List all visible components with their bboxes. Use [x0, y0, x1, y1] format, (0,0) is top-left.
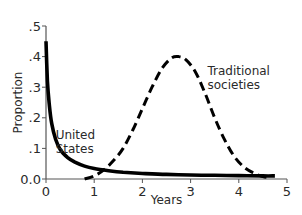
series-annotation: Traditionalsocieties — [206, 64, 269, 92]
y-tick-label: 0.0 — [20, 172, 41, 187]
y-axis-title: Proportion — [11, 72, 25, 134]
y-tick-label: .1 — [29, 141, 41, 156]
x-tick-label: 2 — [138, 184, 146, 199]
x-axis-title: Years — [150, 193, 183, 207]
y-tick-label: .3 — [29, 80, 41, 95]
x-tick-label: 4 — [235, 184, 243, 199]
x-tick-label: 0 — [42, 184, 50, 199]
x-tick-label: 5 — [283, 184, 291, 199]
series-annotation: UnitedStates — [56, 128, 95, 156]
x-tick-label: 1 — [90, 184, 98, 199]
series-layer — [46, 41, 275, 179]
annotations: UnitedStatesTraditionalsocieties — [56, 64, 270, 156]
y-tick-label: .4 — [29, 49, 41, 64]
line-chart: 0.0.1.2.3.4.5012345 UnitedStatesTraditio… — [0, 0, 302, 215]
y-tick-label: .5 — [29, 19, 41, 34]
x-tick-label: 3 — [186, 184, 194, 199]
y-tick-label: .2 — [29, 110, 41, 125]
chart-container: 0.0.1.2.3.4.5012345 UnitedStatesTraditio… — [0, 0, 302, 215]
